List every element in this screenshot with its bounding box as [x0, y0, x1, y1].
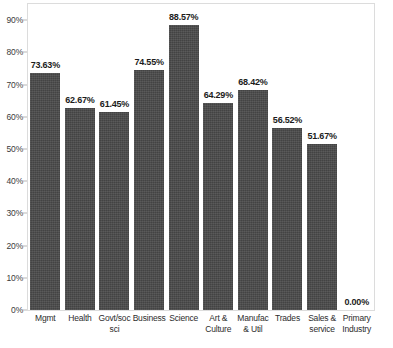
x-axis-category-label: Manufac& Util: [236, 313, 271, 334]
x-axis-category-label-line: Mgmt: [28, 313, 63, 324]
bar-value-label: 51.67%: [307, 131, 336, 141]
x-axis-category-label: Mgmt: [28, 313, 63, 324]
bar[interactable]: [30, 73, 60, 310]
x-axis-category-label-line: Govt/soc: [97, 313, 132, 324]
y-axis-tick-label: 10%: [7, 273, 23, 283]
x-axis-category-label-line: Sales &: [305, 313, 340, 324]
bar[interactable]: [134, 70, 164, 310]
bar-slot: 73.63%: [28, 4, 63, 310]
x-axis: MgmtHealthGovt/socsciBusinessScienceArt …: [28, 313, 374, 348]
bar-slot: 68.42%: [236, 4, 271, 310]
x-axis-category-label-line: Primary: [339, 313, 374, 324]
y-axis-tick-label: 90%: [7, 15, 23, 25]
y-axis-tick-label: 20%: [7, 241, 23, 251]
x-axis-category-label-line: Art &: [201, 313, 236, 324]
x-axis-category-label-line: Health: [63, 313, 98, 324]
bar-value-label: 88.57%: [169, 12, 198, 22]
y-axis-tick-label: 30%: [7, 208, 23, 218]
x-axis-category-label: Sales &service: [305, 313, 340, 334]
bar-slot: 64.29%: [201, 4, 236, 310]
x-axis-category-label: Business: [132, 313, 167, 324]
bar-slot: 61.45%: [97, 4, 132, 310]
bar-slot: 62.67%: [63, 4, 98, 310]
bar[interactable]: [169, 25, 199, 310]
bar[interactable]: [99, 112, 129, 310]
y-axis-tick-label: 0%: [11, 305, 23, 315]
x-axis-category-label: Science: [166, 313, 201, 324]
x-axis-category-label-line: Business: [132, 313, 167, 324]
x-axis-category-label-line: service: [305, 324, 340, 335]
bar-chart: 0%10%20%30%40%50%60%70%80%90% 73.63%62.6…: [0, 0, 393, 348]
y-axis: 0%10%20%30%40%50%60%70%80%90%: [0, 0, 28, 348]
y-axis-tick-label: 70%: [7, 80, 23, 90]
bar-slot: 0.00%: [339, 4, 374, 310]
bar[interactable]: [272, 128, 302, 310]
x-axis-category-label-line: & Util: [236, 324, 271, 335]
bar-value-label: 62.67%: [65, 95, 94, 105]
bar-slot: 88.57%: [166, 4, 201, 310]
bar-value-label: 61.45%: [100, 99, 129, 109]
bar-value-label: 0.00%: [344, 297, 369, 307]
x-axis-category-label-line: Trades: [270, 313, 305, 324]
x-axis-category-label-line: Science: [166, 313, 201, 324]
x-axis-category-label: Health: [63, 313, 98, 324]
bar[interactable]: [238, 90, 268, 310]
x-axis-category-label: Art &Culture: [201, 313, 236, 334]
y-axis-tick-label: 80%: [7, 47, 23, 57]
x-axis-category-label: PrimaryIndustry: [339, 313, 374, 334]
bar-slot: 74.55%: [132, 4, 167, 310]
bar-value-label: 64.29%: [204, 90, 233, 100]
bar-value-label: 68.42%: [238, 77, 267, 87]
bars-layer: 73.63%62.67%61.45%74.55%88.57%64.29%68.4…: [28, 4, 374, 310]
bar-value-label: 56.52%: [273, 115, 302, 125]
bar-slot: 51.67%: [305, 4, 340, 310]
bar-value-label: 73.63%: [31, 60, 60, 70]
x-axis-category-label-line: Culture: [201, 324, 236, 335]
x-axis-category-label-line: Manufac: [236, 313, 271, 324]
x-axis-category-label: Trades: [270, 313, 305, 324]
x-axis-category-label-line: Industry: [339, 324, 374, 335]
y-axis-tick-label: 40%: [7, 176, 23, 186]
bar[interactable]: [307, 144, 337, 310]
x-axis-category-label: Govt/socsci: [97, 313, 132, 334]
y-axis-tick-label: 60%: [7, 112, 23, 122]
y-axis-tick-label: 50%: [7, 144, 23, 154]
x-axis-category-label-line: sci: [97, 324, 132, 335]
bar[interactable]: [203, 103, 233, 310]
bar[interactable]: [65, 108, 95, 310]
bar-value-label: 74.55%: [134, 57, 163, 67]
bar-slot: 56.52%: [270, 4, 305, 310]
